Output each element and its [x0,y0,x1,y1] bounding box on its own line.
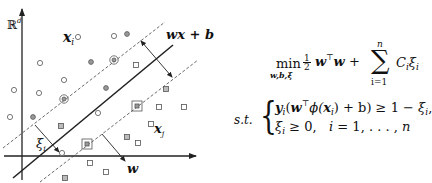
weight-vector: w [315,54,326,69]
constraint-1: yi(w⊤ϕ(xi) + b) ≥ 1 − ξi, [275,100,432,117]
sum-symbol: ∑ [371,47,390,73]
sum-lower-limit: i=1 [371,78,387,87]
slack-label: ξi [36,137,46,153]
label-y: y [275,100,283,115]
point-j-label: xj [154,122,164,138]
margin-width-arrow [141,41,172,77]
sum-upper-limit: n [377,40,383,49]
space-symbol: ℝ [7,18,17,32]
index-end: n [402,119,410,134]
space-dimension: d [17,17,21,25]
weight-vector: w [291,100,302,115]
cost-symbol: C [396,55,406,70]
point-j-subscript: j [162,129,164,138]
slack-subscript: i [43,144,46,153]
one-half-fraction: 12 [303,54,311,71]
positive-points [7,32,129,156]
nonnegativity-condition: ≥ 0, [285,119,317,134]
transpose-symbol: ⊤ [326,53,334,62]
svm-formulation: min w,b,ξ 12 w⊤w + ∑ n i=1 Ciξi s.t. { y… [210,0,420,183]
constraint-2: ξi ≥ 0, i = 1, . . . , n [275,120,410,136]
svm-diagram: ℝd xi wx + b xj ξi w [0,0,210,183]
subject-to-label: s.t. [234,114,253,126]
comma: , [428,100,432,115]
input-x: x [323,100,331,115]
weight-vector-2: w [334,54,345,69]
feature-map: ϕ( [309,100,323,115]
plus-sign: + [349,54,360,69]
negative-support-vectors [82,101,142,149]
normal-vector-label: w [127,162,138,175]
constraint-1-rhs: ) + b) ≥ 1 − [334,100,418,115]
point-i-label: xi [63,30,74,47]
point-j-symbol: x [154,121,162,136]
xi-subscript: i [416,62,419,72]
fraction-denominator: 2 [303,63,311,71]
xi-symbol: ξ [409,55,416,70]
negative-points [59,63,187,181]
upper-margin-line [3,22,165,148]
objective-expression: 12 w⊤w + [303,54,360,71]
index-range: = 1, . . . , [333,119,402,134]
objective-operator: min [276,57,301,70]
hyperplane-label: wx + b [166,28,214,41]
normal-vector-arrow [102,134,125,161]
hyperplane-line [13,45,173,178]
sum-term: Ciξi [396,56,419,72]
objective-operator-subscript: w,b,ξ [270,71,292,79]
space-label: ℝd [7,18,21,31]
point-i-subscript: i [71,37,74,47]
